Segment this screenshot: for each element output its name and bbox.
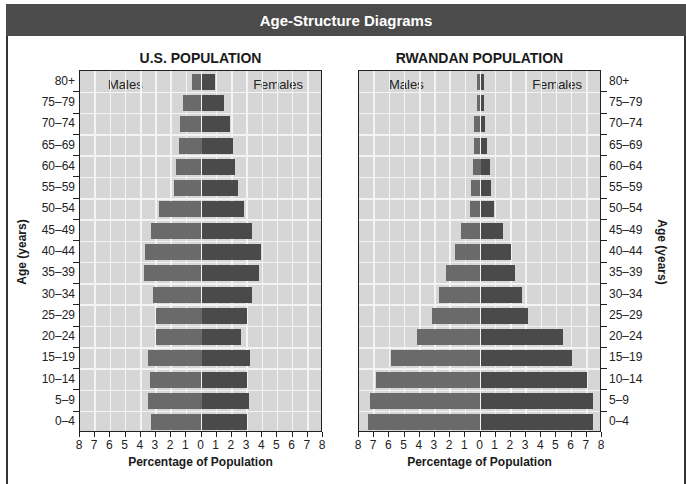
- age-group-label: 65–69: [33, 138, 75, 152]
- x-tick-label: 8: [595, 438, 607, 452]
- x-tick-label: 6: [286, 438, 298, 452]
- x-tick-label: 6: [382, 438, 394, 452]
- x-tick: [307, 432, 308, 437]
- y-tick: [601, 91, 607, 92]
- age-group-label: 0–4: [609, 414, 629, 428]
- gridline-vertical: [110, 71, 112, 431]
- female-bar: [202, 223, 252, 239]
- x-tick: [434, 432, 435, 437]
- female-bar: [202, 308, 248, 324]
- gridline-horizontal: [80, 411, 321, 413]
- x-tick: [216, 432, 217, 437]
- x-tick-label: 5: [119, 438, 131, 452]
- male-bar: [471, 180, 480, 196]
- gridline-horizontal: [80, 390, 321, 392]
- gridline-horizontal: [80, 113, 321, 115]
- gridline-horizontal: [80, 326, 321, 328]
- age-group-label: 45–49: [609, 223, 642, 237]
- gridline-horizontal: [359, 134, 600, 136]
- gridline-horizontal: [359, 368, 600, 370]
- female-bar: [481, 414, 593, 430]
- y-tick: [73, 283, 79, 284]
- x-tick: [358, 432, 359, 437]
- female-bar: [202, 265, 260, 281]
- x-tick-label: 0: [474, 438, 486, 452]
- x-tick-label: 1: [210, 438, 222, 452]
- female-bar: [202, 244, 261, 260]
- gridline-horizontal: [359, 198, 600, 200]
- x-tick: [140, 432, 141, 437]
- gridline-vertical: [292, 71, 294, 431]
- male-bar: [148, 350, 201, 366]
- y-tick: [73, 113, 79, 114]
- male-bar: [391, 350, 481, 366]
- age-group-label: 50–54: [609, 201, 642, 215]
- y-tick: [601, 198, 607, 199]
- x-tick-label: 3: [428, 438, 440, 452]
- age-group-label: 40–44: [33, 244, 75, 258]
- us-chart-title: U.S. POPULATION: [79, 50, 322, 66]
- male-bar: [176, 159, 202, 175]
- gridline-horizontal: [359, 262, 600, 264]
- x-tick: [261, 432, 262, 437]
- x-tick: [555, 432, 556, 437]
- female-bar: [481, 265, 516, 281]
- age-group-label: 15–19: [33, 350, 75, 364]
- x-tick-label: 1: [179, 438, 191, 452]
- age-group-label: 60–64: [609, 159, 642, 173]
- gridline-vertical: [262, 71, 264, 431]
- x-tick: [155, 432, 156, 437]
- female-bar: [202, 74, 216, 90]
- y-tick: [601, 368, 607, 369]
- y-tick: [73, 347, 79, 348]
- x-tick: [125, 432, 126, 437]
- gridline-horizontal: [359, 283, 600, 285]
- female-bar: [202, 393, 249, 409]
- y-tick: [73, 134, 79, 135]
- gridline-horizontal: [359, 155, 600, 157]
- y-tick: [601, 134, 607, 135]
- y-tick: [73, 155, 79, 156]
- age-group-label: 75–79: [33, 95, 75, 109]
- figure-title: Age-Structure Diagrams: [260, 12, 433, 29]
- x-tick-label: 7: [367, 438, 379, 452]
- age-group-label: 20–24: [609, 329, 642, 343]
- x-tick-label: 1: [458, 438, 470, 452]
- us-pyramid-plot: Males Females: [79, 70, 322, 432]
- female-bar: [481, 329, 563, 345]
- x-tick-label: 5: [270, 438, 282, 452]
- x-tick-label: 4: [413, 438, 425, 452]
- y-tick: [73, 304, 79, 305]
- age-group-label: 80+: [33, 74, 75, 88]
- x-tick: [185, 432, 186, 437]
- male-bar: [144, 265, 202, 281]
- gridline-horizontal: [359, 241, 600, 243]
- rwanda-chart-title: RWANDAN POPULATION: [358, 50, 601, 66]
- female-bar: [481, 95, 484, 111]
- gridline-vertical: [373, 71, 375, 431]
- x-tick-label: 8: [352, 438, 364, 452]
- y-tick: [601, 411, 607, 412]
- age-group-label: 35–39: [609, 265, 642, 279]
- gridline-horizontal: [80, 198, 321, 200]
- x-tick: [276, 432, 277, 437]
- age-group-label: 5–9: [609, 393, 629, 407]
- x-tick-label: 2: [225, 438, 237, 452]
- gridline-horizontal: [80, 304, 321, 306]
- age-group-label: 30–34: [609, 287, 642, 301]
- female-bar: [481, 244, 511, 260]
- age-group-label: 75–79: [609, 95, 642, 109]
- male-bar: [150, 372, 202, 388]
- x-tick-label: 3: [240, 438, 252, 452]
- gridline-horizontal: [80, 155, 321, 157]
- y-tick: [601, 219, 607, 220]
- female-bar: [481, 159, 490, 175]
- male-bar: [446, 265, 481, 281]
- gridline-vertical: [140, 71, 142, 431]
- rwanda-x-axis-title: Percentage of Population: [358, 455, 601, 469]
- female-bar: [202, 201, 245, 217]
- female-bar: [202, 95, 225, 111]
- figure-header: Age-Structure Diagrams: [6, 4, 686, 36]
- rwanda-pyramid-plot: Males Females: [358, 70, 601, 432]
- female-bar: [481, 223, 504, 239]
